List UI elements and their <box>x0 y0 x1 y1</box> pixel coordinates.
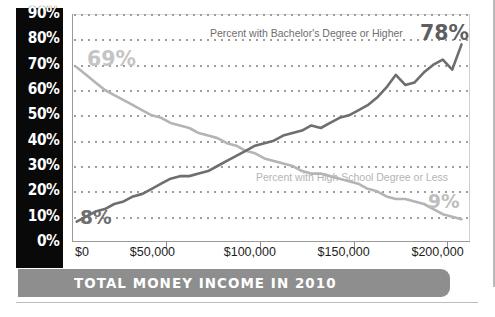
x-axis-tick-label: $0 <box>75 245 89 259</box>
y-axis-tick-label: 90% <box>27 6 59 21</box>
bachelor-start-value: 8% <box>80 207 112 227</box>
y-axis-tick-label: 30% <box>27 158 59 173</box>
bottom-divider-rule <box>16 302 478 303</box>
infographic-chart-panel: 90%80%70%60%50%40%30%20%10%0% $0$50,000$… <box>0 0 495 317</box>
bachelor-end-value: 78% <box>420 22 469 44</box>
highschool-start-value: 69% <box>87 48 136 70</box>
y-axis-tick-label: 80% <box>27 31 59 46</box>
y-axis-tick-label: 60% <box>27 82 59 97</box>
x-axis-tick-label: $200,000 <box>411 245 463 259</box>
y-axis-tick-label: 10% <box>27 209 59 224</box>
banner-title: TOTAL MONEY INCOME IN 2010 <box>74 275 337 291</box>
y-axis-tick-label: 40% <box>27 133 59 148</box>
highschool-end-value: 9% <box>428 191 460 211</box>
x-axis-tick-label: $150,000 <box>318 245 370 259</box>
title-banner: TOTAL MONEY INCOME IN 2010 <box>18 269 450 297</box>
bachelor-series-label: Percent with Bachelor's Degree or Higher <box>210 27 403 39</box>
y-axis-tick-label: 0% <box>36 234 59 249</box>
y-axis-tick-label: 70% <box>27 57 59 72</box>
highschool-series-label: Percent with High School Degree or Less <box>256 171 448 183</box>
x-axis-tick-label: $100,000 <box>224 245 276 259</box>
y-axis-tick-label: 50% <box>27 107 59 122</box>
y-axis-tick-label: 20% <box>27 183 59 198</box>
y-axis-label-bar: 90%80%70%60%50%40%30%20%10%0% <box>16 8 63 268</box>
x-axis-tick-label: $50,000 <box>130 245 175 259</box>
